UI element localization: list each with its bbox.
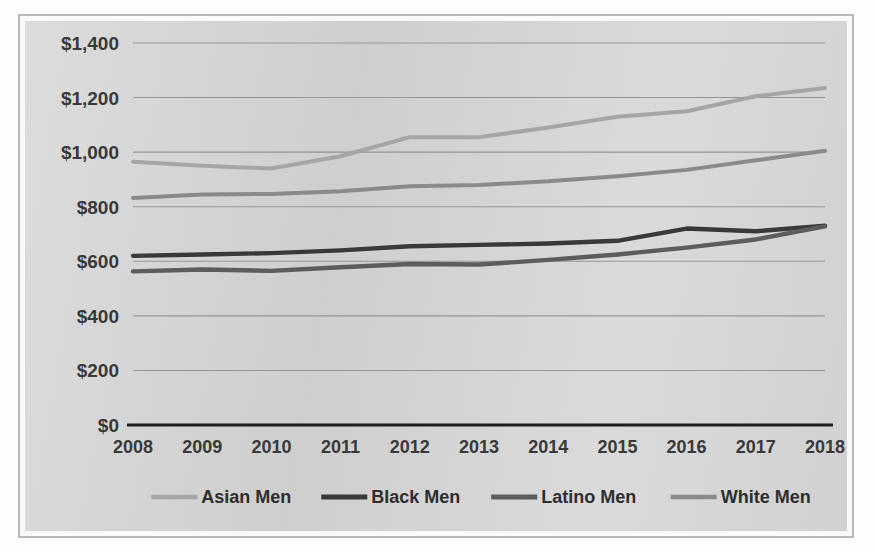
legend-label: Latino Men [541,487,636,507]
series-line-latino-men [133,226,825,271]
series-line-black-men [133,226,825,256]
series-lines [133,88,825,271]
y-axis-tick-label: $1,000 [61,142,119,163]
x-axis-tick-label: 2010 [251,437,291,457]
chart-frame-border: $0$200$400$600$800$1,000$1,200$1,400 200… [18,14,854,538]
x-axis-tick-label: 2009 [182,437,222,457]
x-axis-tick-label: 2018 [805,437,845,457]
legend-item-asian-men[interactable]: Asian Men [151,487,291,507]
x-axis-tick-label: 2015 [597,437,637,457]
x-axis-tick-label: 2017 [736,437,776,457]
x-axis-tick-label: 2014 [528,437,568,457]
x-axis-tick-labels: 2008200920102011201220132014201520162017… [113,437,845,457]
legend-label: Asian Men [201,487,291,507]
y-axis-tick-label: $800 [77,197,119,218]
y-axis-tick-label: $1,200 [61,88,119,109]
legend-item-black-men[interactable]: Black Men [321,487,460,507]
legend-label: Black Men [371,487,460,507]
y-axis-tick-label: $200 [77,360,119,381]
x-axis-tick-label: 2008 [113,437,153,457]
y-axis-tick-label: $0 [98,415,119,436]
x-axis-tick-label: 2016 [667,437,707,457]
legend-item-latino-men[interactable]: Latino Men [491,487,636,507]
legend-label: White Men [721,487,811,507]
x-axis-tick-label: 2011 [321,437,360,457]
y-axis-tick-label: $1,400 [61,33,119,54]
x-axis-tick-label: 2012 [390,437,430,457]
gridlines [133,43,825,370]
y-axis-tick-label: $400 [77,306,119,327]
chart-legend: Asian MenBlack MenLatino MenWhite Men [151,487,810,507]
chart-figure: $0$200$400$600$800$1,000$1,200$1,400 200… [0,0,875,553]
line-chart-svg: $0$200$400$600$800$1,000$1,200$1,400 200… [25,21,847,531]
legend-item-white-men[interactable]: White Men [671,487,811,507]
x-axis-tick-label: 2013 [459,437,499,457]
y-axis-tick-label: $600 [77,251,119,272]
y-axis-tick-labels: $0$200$400$600$800$1,000$1,200$1,400 [61,33,119,436]
series-line-white-men [133,151,825,198]
series-line-asian-men [133,88,825,168]
chart-plot-area: $0$200$400$600$800$1,000$1,200$1,400 200… [25,21,847,531]
